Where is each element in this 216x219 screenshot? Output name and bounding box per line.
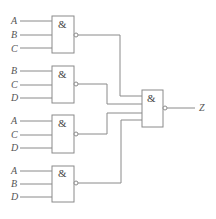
interconnect-wires bbox=[78, 35, 142, 183]
input-label-g2-2: C bbox=[11, 79, 18, 90]
inversion-bubble bbox=[163, 106, 167, 110]
input-label-g3-3: D bbox=[10, 142, 19, 153]
and-symbol: & bbox=[58, 18, 67, 30]
wire-g4-to-g5 bbox=[78, 120, 142, 183]
input-label-g2-1: B bbox=[11, 65, 17, 76]
input-label-g4-1: A bbox=[10, 165, 18, 176]
nand-gate-4: A B D & bbox=[10, 165, 78, 202]
input-label-g3-2: C bbox=[11, 129, 18, 140]
logic-circuit-diagram: A B C & B C D & A C D & A B D bbox=[0, 0, 216, 219]
inversion-bubble bbox=[74, 33, 78, 37]
input-label-g2-3: D bbox=[10, 92, 19, 103]
input-label-g1-1: A bbox=[10, 15, 18, 26]
inversion-bubble bbox=[74, 181, 78, 185]
nand-gate-output: & Z bbox=[142, 90, 205, 127]
input-label-g1-3: C bbox=[11, 43, 18, 54]
nand-gate-3: A C D & bbox=[10, 115, 78, 153]
output-label: Z bbox=[199, 102, 205, 113]
inversion-bubble bbox=[74, 132, 78, 136]
input-label-g1-2: B bbox=[11, 29, 17, 40]
and-symbol: & bbox=[147, 92, 156, 104]
input-label-g4-2: B bbox=[11, 178, 17, 189]
wire-g2-to-g5 bbox=[78, 84, 142, 104]
and-symbol: & bbox=[58, 117, 67, 129]
nand-gate-1: A B C & bbox=[10, 15, 78, 54]
and-symbol: & bbox=[58, 167, 67, 179]
and-symbol: & bbox=[58, 68, 67, 80]
wire-g1-to-g5 bbox=[78, 35, 142, 96]
wire-g3-to-g5 bbox=[78, 113, 142, 134]
inversion-bubble bbox=[74, 82, 78, 86]
input-label-g4-3: D bbox=[10, 191, 19, 202]
nand-gate-2: B C D & bbox=[10, 65, 78, 103]
input-label-g3-1: A bbox=[10, 115, 18, 126]
